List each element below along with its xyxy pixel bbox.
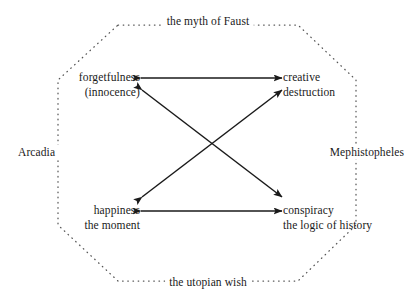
connector-lines xyxy=(141,78,282,211)
perimeter-label-faust: the myth of Faust xyxy=(163,14,254,28)
diagram-canvas: forgetfulness (innocence) creative destr… xyxy=(0,0,416,305)
node-happiness-line1: happiness xyxy=(94,204,140,216)
perimeter-label-mephistopheles: Mephistopheles xyxy=(326,145,408,159)
node-happiness: happiness the moment xyxy=(84,203,140,233)
node-happiness-line2: the moment xyxy=(84,218,140,233)
node-forgetfulness: forgetfulness (innocence) xyxy=(79,70,140,100)
node-creative-destruction-line1: creative xyxy=(283,71,320,83)
node-conspiracy-line2: the logic of history xyxy=(283,218,372,233)
perimeter-label-utopian-wish: the utopian wish xyxy=(165,275,251,289)
node-forgetfulness-line1: forgetfulness xyxy=(79,71,140,83)
octagon-outline xyxy=(58,25,356,281)
perimeter-label-arcadia: Arcadia xyxy=(14,145,59,159)
node-creative-destruction: creative destruction xyxy=(283,70,335,100)
node-creative-destruction-line2: destruction xyxy=(283,85,335,100)
node-conspiracy-line1: conspiracy xyxy=(283,204,334,216)
node-forgetfulness-line2: (innocence) xyxy=(79,85,140,100)
node-conspiracy: conspiracy the logic of history xyxy=(283,203,372,233)
